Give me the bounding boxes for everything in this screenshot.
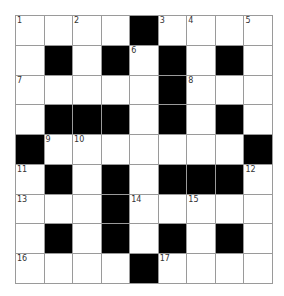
- clue-number: 9: [46, 135, 51, 144]
- grid-cell[interactable]: [16, 105, 45, 135]
- grid-cell[interactable]: [216, 76, 245, 106]
- grid-cell[interactable]: 13: [16, 195, 45, 225]
- grid-cell[interactable]: [216, 16, 245, 46]
- grid-cell[interactable]: [73, 195, 102, 225]
- grid-cell[interactable]: [159, 195, 188, 225]
- grid-cell[interactable]: [45, 76, 74, 106]
- grid-cell[interactable]: [244, 224, 273, 254]
- black-cell: [159, 46, 188, 76]
- grid-cell[interactable]: [187, 224, 216, 254]
- grid-cell[interactable]: 15: [187, 195, 216, 225]
- clue-number: 1: [17, 16, 22, 25]
- grid-cell[interactable]: [187, 105, 216, 135]
- grid-cell[interactable]: [244, 105, 273, 135]
- black-cell: [130, 254, 159, 284]
- black-cell: [45, 165, 74, 195]
- black-cell: [45, 105, 74, 135]
- grid-cell[interactable]: 17: [159, 254, 188, 284]
- clue-number: 4: [188, 16, 193, 25]
- black-cell: [16, 135, 45, 165]
- black-cell: [73, 105, 102, 135]
- grid-cell[interactable]: 1: [16, 16, 45, 46]
- clue-number: 16: [17, 254, 27, 263]
- grid-cell[interactable]: [102, 16, 131, 46]
- grid-cell[interactable]: [216, 254, 245, 284]
- grid-cell[interactable]: [130, 165, 159, 195]
- grid-cell[interactable]: [216, 195, 245, 225]
- grid-cell[interactable]: [45, 16, 74, 46]
- black-cell: [102, 195, 131, 225]
- black-cell: [216, 165, 245, 195]
- grid-cell[interactable]: 2: [73, 16, 102, 46]
- clue-number: 15: [188, 195, 198, 204]
- grid-cell[interactable]: 5: [244, 16, 273, 46]
- black-cell: [130, 16, 159, 46]
- grid-cell[interactable]: 3: [159, 16, 188, 46]
- black-cell: [102, 105, 131, 135]
- grid-cell[interactable]: 7: [16, 76, 45, 106]
- grid-cell[interactable]: [45, 254, 74, 284]
- black-cell: [244, 135, 273, 165]
- black-cell: [159, 105, 188, 135]
- grid-cell[interactable]: [102, 254, 131, 284]
- black-cell: [187, 165, 216, 195]
- black-cell: [45, 224, 74, 254]
- grid-cell[interactable]: [244, 76, 273, 106]
- black-cell: [45, 46, 74, 76]
- black-cell: [159, 224, 188, 254]
- clue-number: 13: [17, 195, 27, 204]
- clue-number: 17: [160, 254, 170, 263]
- grid-cell[interactable]: [73, 165, 102, 195]
- grid-cell[interactable]: 12: [244, 165, 273, 195]
- black-cell: [216, 105, 245, 135]
- grid-cell[interactable]: [187, 135, 216, 165]
- grid-cell[interactable]: [244, 254, 273, 284]
- black-cell: [102, 165, 131, 195]
- grid-cell[interactable]: [159, 135, 188, 165]
- grid-cell[interactable]: [130, 224, 159, 254]
- grid-cell[interactable]: [73, 254, 102, 284]
- clue-number: 7: [17, 76, 22, 85]
- crossword-grid: 1234567891011121314151617: [15, 15, 273, 284]
- grid-cell[interactable]: [102, 135, 131, 165]
- grid-cell[interactable]: [45, 195, 74, 225]
- grid-cell[interactable]: [130, 105, 159, 135]
- grid-cell[interactable]: [16, 224, 45, 254]
- grid-cell[interactable]: [244, 46, 273, 76]
- clue-number: 10: [74, 135, 84, 144]
- grid-cell[interactable]: [187, 46, 216, 76]
- clue-number: 12: [245, 165, 255, 174]
- black-cell: [216, 46, 245, 76]
- grid-cell[interactable]: 16: [16, 254, 45, 284]
- grid-cell[interactable]: [16, 46, 45, 76]
- grid-cell[interactable]: 9: [45, 135, 74, 165]
- grid-cell[interactable]: [130, 135, 159, 165]
- clue-number: 14: [131, 195, 141, 204]
- clue-number: 5: [245, 16, 250, 25]
- grid-cell[interactable]: 8: [187, 76, 216, 106]
- grid-cell[interactable]: 14: [130, 195, 159, 225]
- grid-cell[interactable]: [130, 76, 159, 106]
- clue-number: 6: [131, 46, 136, 55]
- grid-cell[interactable]: 10: [73, 135, 102, 165]
- grid-cell[interactable]: [73, 76, 102, 106]
- grid-cell[interactable]: 4: [187, 16, 216, 46]
- black-cell: [216, 224, 245, 254]
- grid-cell[interactable]: [73, 224, 102, 254]
- clue-number: 8: [188, 76, 193, 85]
- grid-cell[interactable]: [102, 76, 131, 106]
- black-cell: [159, 76, 188, 106]
- grid-cell[interactable]: [73, 46, 102, 76]
- black-cell: [102, 224, 131, 254]
- black-cell: [159, 165, 188, 195]
- black-cell: [102, 46, 131, 76]
- grid-cell[interactable]: [244, 195, 273, 225]
- grid-cell[interactable]: [187, 254, 216, 284]
- grid-cell[interactable]: 11: [16, 165, 45, 195]
- clue-number: 11: [17, 165, 27, 174]
- clue-number: 3: [160, 16, 165, 25]
- grid-cell[interactable]: 6: [130, 46, 159, 76]
- grid-cell[interactable]: [216, 135, 245, 165]
- clue-number: 2: [74, 16, 79, 25]
